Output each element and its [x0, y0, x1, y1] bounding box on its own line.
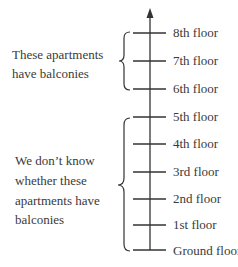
axis-arrow-icon	[147, 8, 154, 18]
group-text-line: have balconies	[12, 66, 89, 81]
floor-label-3: 3rd floor	[173, 164, 220, 179]
floor-label-ground: Ground floor	[173, 243, 238, 258]
floor-label-6: 6th floor	[173, 81, 219, 96]
floor-label-4: 4th floor	[173, 136, 219, 151]
group-text-line: These apartments	[12, 47, 103, 62]
floor-label-1: 1st floor	[173, 217, 217, 232]
floor-label-5: 5th floor	[173, 109, 219, 124]
floor-diagram: 8th floor 7th floor 6th floor 5th floor …	[0, 0, 238, 267]
group-text-line: We don’t know	[15, 153, 95, 168]
group-text-line: apartments have	[15, 193, 100, 208]
floor-label-2: 2nd floor	[173, 191, 222, 206]
floor-label-7: 7th floor	[173, 53, 219, 68]
floor-label-8: 8th floor	[173, 25, 219, 40]
brace-balconies-known	[119, 32, 130, 90]
brace-balconies-unknown	[118, 118, 130, 251]
group-text-line: balconies	[15, 212, 64, 227]
group-text-line: whether these	[15, 173, 87, 188]
